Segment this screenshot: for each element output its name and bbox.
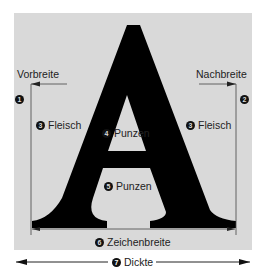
zeichenbreite-label: 6Zeichenbreite: [95, 236, 171, 248]
vorbreite-arrow-icon: [31, 82, 40, 87]
vorbreite-label: Vorbreite: [17, 68, 59, 80]
marker-2: 2: [240, 93, 249, 105]
punzen-upper-label: 4Punzen: [102, 127, 150, 139]
marker-1: 1: [15, 93, 24, 105]
fleisch-left-label: 3Fleisch: [36, 119, 81, 131]
fleisch-right-label: 3Fleisch: [186, 119, 231, 131]
nachbreite-arrow-icon: [227, 82, 236, 87]
dickte-right-arrow-icon: [239, 259, 250, 265]
nachbreite-label: Nachbreite: [196, 68, 247, 80]
dickte-label: 7Dickte: [112, 256, 153, 268]
dickte-left-arrow-icon: [16, 259, 27, 265]
punzen-lower-label: 5Punzen: [104, 180, 152, 192]
